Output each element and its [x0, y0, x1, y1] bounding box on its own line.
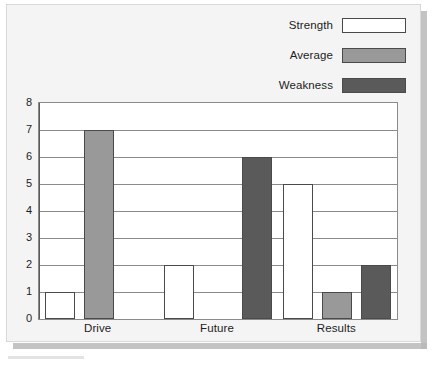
chart-figure: StrengthAverageWeakness 012345678 DriveF…: [0, 0, 440, 366]
x-axis-tick-label: Results: [317, 322, 356, 334]
bar-future-weakness: [242, 157, 272, 319]
y-axis-tick-label: 7: [26, 124, 32, 135]
plot-canvas: [38, 102, 398, 320]
legend-item-average: Average: [256, 42, 406, 68]
chart-legend: StrengthAverageWeakness: [256, 12, 406, 102]
bar-drive-average: [84, 130, 114, 319]
y-axis: 012345678: [14, 98, 36, 322]
x-axis-tick-label: Drive: [84, 322, 111, 334]
x-axis-tick-label: Future: [200, 322, 234, 334]
legend-label: Strength: [289, 19, 333, 31]
card-shadow-bottom: [13, 343, 427, 349]
y-axis-tick-label: 1: [26, 286, 32, 297]
legend-item-strength: Strength: [256, 12, 406, 38]
bar-results-average: [322, 292, 352, 319]
legend-swatch-icon: [342, 48, 406, 63]
bar-drive-strength: [45, 292, 75, 319]
bar-results-strength: [283, 184, 313, 319]
plot-area: 012345678 DriveFutureResults: [14, 98, 404, 326]
x-axis: DriveFutureResults: [38, 322, 398, 342]
footer-rule: [8, 356, 84, 359]
y-axis-tick-label: 6: [26, 151, 32, 162]
y-axis-tick-label: 0: [26, 313, 32, 324]
legend-swatch-icon: [342, 78, 406, 93]
y-axis-tick-label: 8: [26, 97, 32, 108]
legend-item-weakness: Weakness: [256, 72, 406, 98]
y-axis-tick-label: 3: [26, 232, 32, 243]
bar-future-strength: [164, 265, 194, 319]
bars-layer: [39, 103, 397, 319]
legend-swatch-icon: [342, 18, 406, 33]
y-axis-tick-label: 5: [26, 178, 32, 189]
y-axis-tick-label: 4: [26, 205, 32, 216]
y-axis-tick-label: 2: [26, 259, 32, 270]
bar-results-weakness: [361, 265, 391, 319]
card-shadow-right: [421, 11, 427, 349]
legend-label: Weakness: [279, 79, 333, 91]
legend-label: Average: [290, 49, 333, 61]
